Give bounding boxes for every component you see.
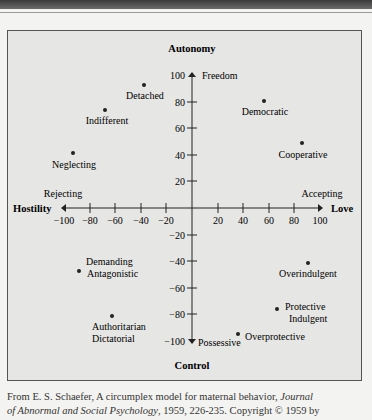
x-tick: 100 [313,215,328,226]
x-tick: 40 [238,215,248,226]
label-antagonistic: Antagonistic [87,268,139,279]
y-tick: −20 [169,230,185,241]
point-authoritarian-dictatorial [110,314,114,318]
point-neglecting [71,151,75,155]
x-tick: −20 [158,215,174,226]
point-democratic [262,99,266,103]
x-tick: −100 [54,215,75,226]
x-tick: −60 [107,215,123,226]
y-tick: 100 [170,70,185,81]
point-detached [142,83,146,87]
label-demanding: Demanding [86,256,133,267]
label-democratic: Democratic [242,106,289,117]
y-tick: −100 [164,336,185,347]
caption-journal-name: of Abnormal and Social Psychology [7,405,158,416]
x-tick: −40 [133,215,149,226]
x-tick: −80 [82,215,98,226]
arrow-left-icon [61,204,66,212]
x-tick: 80 [289,215,299,226]
label-detached: Detached [126,90,164,101]
label-protective: Protective [285,301,326,312]
y-tick: 80 [175,97,185,108]
pole-love: Love [331,203,354,214]
circumplex-chart: Autonomy Control Hostility Love Freedom … [0,0,372,420]
y-tick: −40 [169,256,185,267]
label-authoritarian: Authoritarian [92,321,146,332]
point-indifferent [103,108,107,112]
y-tick: −80 [169,309,185,320]
x-tick: 60 [264,215,274,226]
point-overindulgent [306,261,310,265]
point-cooperative [300,141,304,145]
point-overprotective [236,332,240,336]
arrow-down-icon [188,339,196,344]
y-tick: 20 [175,176,185,187]
label-possessive: Possessive [198,337,241,348]
label-indulgent: Indulgent [289,313,328,324]
caption-text: , 1959, 226-235. Copyright © 1959 by [158,405,320,416]
arrow-right-icon [318,204,323,212]
label-accepting: Accepting [301,188,342,199]
y-tick: 60 [175,123,185,134]
label-rejecting: Rejecting [44,188,82,199]
label-neglecting: Neglecting [52,159,96,170]
y-tick: −60 [169,283,185,294]
label-overindulgent: Overindulgent [279,268,337,279]
pole-autonomy: Autonomy [168,43,216,54]
point-demanding-antagonistic [77,269,81,273]
label-cooperative: Cooperative [279,149,328,160]
caption-journal: Journal [280,391,313,402]
label-dictatorial: Dictatorial [92,333,135,344]
label-overprotective: Overprotective [245,331,306,342]
point-protective-indulgent [275,307,279,311]
pole-hostility: Hostility [13,203,52,214]
label-indifferent: Indifferent [86,115,129,126]
x-tick: 20 [213,215,223,226]
pole-control: Control [175,360,210,371]
arrow-up-icon [188,72,196,77]
y-tick: 40 [175,150,185,161]
figure-caption: From E. S. Schaefer, A circumplex model … [7,390,365,418]
label-freedom: Freedom [202,70,238,81]
caption-text: From E. S. Schaefer, A circumplex model … [7,391,280,402]
